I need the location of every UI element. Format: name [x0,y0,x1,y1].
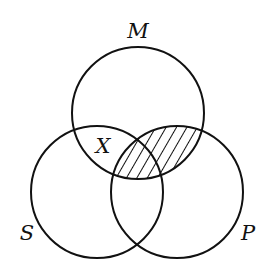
label-m: M [126,19,149,43]
label-s: S [20,221,34,245]
label-x: X [94,134,112,158]
label-p: P [240,221,256,245]
venn-diagram: M S P X [0,0,277,276]
